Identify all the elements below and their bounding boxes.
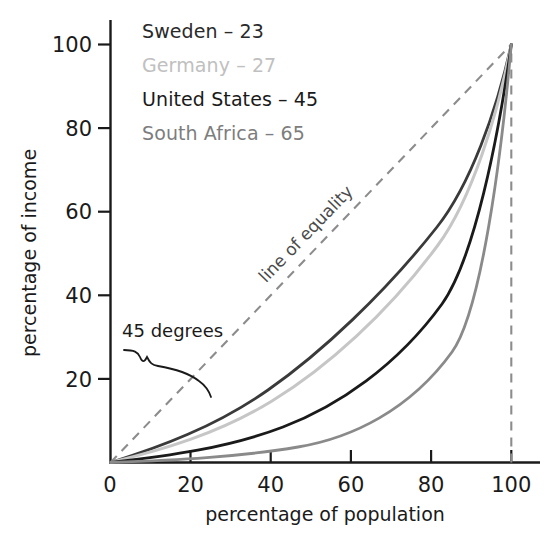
x-tick-label-60: 60: [338, 473, 365, 497]
legend-item-sweden: Sweden – 23: [142, 20, 264, 42]
y-axis-title: percentage of income: [18, 149, 40, 357]
x-tick-label-40: 40: [257, 473, 284, 497]
y-tick-label-60: 60: [65, 200, 92, 224]
y-tick-label-100: 100: [52, 33, 92, 57]
forty-five-degrees-label: 45 degrees: [122, 320, 223, 341]
legend-item-germany: Germany – 27: [142, 54, 276, 76]
y-tick-label-80: 80: [65, 117, 92, 141]
legend-item-united-states: United States – 45: [142, 88, 318, 110]
x-tick-label-80: 80: [418, 473, 445, 497]
legend-item-south-africa: South Africa – 65: [142, 122, 305, 144]
chart-svg: 100 80 60 40 20 0 20 40 60 80 100 percen…: [0, 0, 551, 537]
lorenz-curve-chart: 100 80 60 40 20 0 20 40 60 80 100 percen…: [0, 0, 551, 537]
x-tick-label-20: 20: [177, 473, 204, 497]
x-tick-label-0: 0: [103, 473, 116, 497]
x-axis-title: percentage of population: [205, 503, 445, 525]
y-tick-label-20: 20: [65, 368, 92, 392]
y-tick-label-40: 40: [65, 284, 92, 308]
x-tick-label-100: 100: [491, 473, 531, 497]
